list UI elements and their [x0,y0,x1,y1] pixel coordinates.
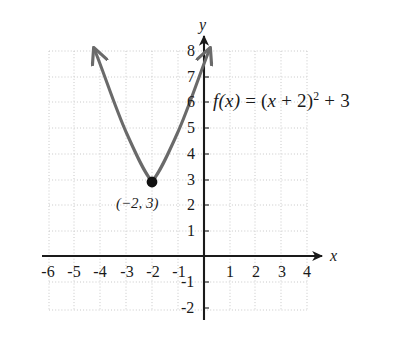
equation-constant: 3 [340,90,350,111]
x-tick-1: 1 [226,264,234,280]
y-tick-7: 7 [187,69,195,85]
y-tick-4: 4 [187,146,195,162]
graph-figure: y x -6 -5 -4 -3 -2 -1 1 2 3 4 8 7 6 5 4 … [0,0,418,340]
x-tick--6: -6 [41,264,54,280]
function-equation-label: f(x) = (x + 2)2 + 3 [213,91,350,110]
x-tick--3: -3 [120,264,133,280]
equation-function-name: f(x) [213,90,240,111]
coordinate-plane [0,0,418,340]
y-tick-8: 8 [187,43,195,59]
x-tick-4: 4 [303,264,311,280]
y-tick--2: -2 [181,300,194,316]
y-tick-1: 1 [187,223,195,239]
x-tick-2: 2 [252,264,260,280]
x-tick--2: -2 [146,264,159,280]
y-tick-5: 5 [187,120,195,136]
y-tick-6: 6 [187,94,195,110]
equation-plus: + [281,90,292,111]
y-axis-label: y [199,17,206,33]
equation-plus-2: + [324,90,335,111]
equation-shift: 2 [297,90,307,111]
vertex-point [147,177,158,188]
equation-equals: = [245,90,256,111]
y-tick-3: 3 [187,172,195,188]
x-tick-3: 3 [278,264,286,280]
x-tick--5: -5 [67,264,80,280]
equation-variable: x [268,90,277,111]
y-tick-2: 2 [187,197,195,213]
vertex-label: (−2, 3) [116,196,159,211]
x-axis-label: x [330,248,337,264]
y-tick--1: -1 [181,274,194,290]
x-tick--4: -4 [93,264,106,280]
